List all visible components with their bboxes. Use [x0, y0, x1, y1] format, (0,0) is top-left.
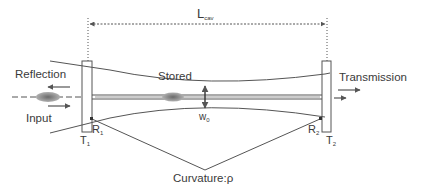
cavity-length-arrow	[88, 18, 327, 100]
cavity-length-label: Lcav	[197, 7, 214, 21]
r1-label: R1	[92, 124, 103, 136]
stored-pulse-icon	[162, 93, 184, 102]
stored-label: Stored	[158, 71, 192, 83]
r2-label: R2	[308, 124, 319, 136]
t2-label: T2	[326, 135, 336, 147]
cavity-diagram	[0, 0, 426, 193]
curvature-lines	[92, 119, 320, 170]
reflection-label: Reflection	[15, 69, 66, 81]
transmission-label: Transmission	[339, 72, 407, 84]
mirror-2	[322, 61, 331, 132]
curvature-label: Curvature:ρ	[173, 173, 233, 185]
input-label: Input	[26, 113, 52, 125]
t1-label: T1	[80, 135, 90, 147]
waist-label: w0	[199, 112, 210, 123]
input-pulse-icon	[36, 92, 60, 102]
mirror-1	[82, 61, 92, 132]
